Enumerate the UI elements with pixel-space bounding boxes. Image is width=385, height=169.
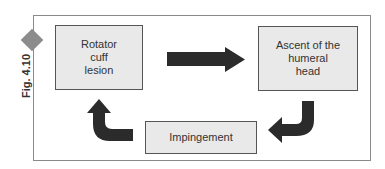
curved-arrow-down-left-icon (268, 101, 314, 143)
arrows-layer (0, 0, 385, 169)
arrow-right-icon (167, 47, 245, 72)
curved-arrow-up-left-icon (87, 99, 133, 141)
